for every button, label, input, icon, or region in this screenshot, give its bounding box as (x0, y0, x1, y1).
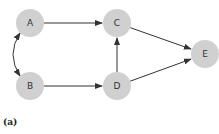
node-a: A (16, 9, 44, 37)
graph-diagram: ABCDE (0, 0, 219, 134)
node-label: B (27, 81, 33, 91)
node-d: D (103, 72, 131, 100)
node-label: A (27, 18, 34, 28)
node-label: D (114, 81, 121, 91)
figure-caption: (a) (3, 117, 17, 127)
node-label: C (114, 18, 120, 28)
node-c: C (103, 9, 131, 37)
node-label: E (202, 49, 208, 59)
edge-d-e (130, 59, 191, 81)
edge-c-e (130, 28, 191, 49)
node-e: E (191, 40, 219, 68)
edge-a-b (13, 33, 20, 76)
node-b: B (16, 72, 44, 100)
